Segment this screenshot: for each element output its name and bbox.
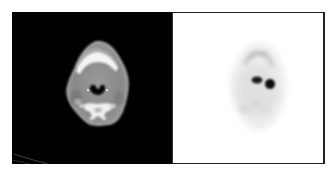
ct-bone-lateral-right <box>110 104 116 108</box>
pet-panel: PET axial slice <box>172 12 325 164</box>
ct-bright-dot <box>87 89 90 92</box>
pet-hotspot-left <box>252 77 263 84</box>
ct-panel: CT axial slice <box>12 12 172 164</box>
ct-bone-lateral-left <box>79 104 85 108</box>
ct-soft-tissue-right <box>114 91 124 105</box>
pet-mid-uptake <box>250 100 260 106</box>
ct-image <box>12 12 172 164</box>
pet-image <box>173 13 323 162</box>
ct-pet-figure: CT axial slice <box>12 12 325 164</box>
pet-hotspot-right <box>265 79 275 89</box>
pet-lower-right-uptake <box>259 105 271 113</box>
scanner-table-arc <box>14 154 48 164</box>
ct-gland-left <box>75 99 82 105</box>
ct-bright-dot <box>106 89 109 92</box>
scanner-table-arc-2 <box>12 160 30 164</box>
pet-lower-left-uptake <box>239 105 251 113</box>
